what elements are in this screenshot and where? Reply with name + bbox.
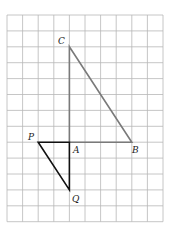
square-grid <box>7 15 163 222</box>
grid-diagram: C A B P Q <box>0 0 170 232</box>
label-b: B <box>131 145 139 155</box>
label-p: P <box>27 132 35 142</box>
label-q: Q <box>72 194 80 204</box>
label-c: C <box>58 36 65 46</box>
point-labels: C A B P Q <box>27 36 139 204</box>
label-a: A <box>72 145 80 155</box>
